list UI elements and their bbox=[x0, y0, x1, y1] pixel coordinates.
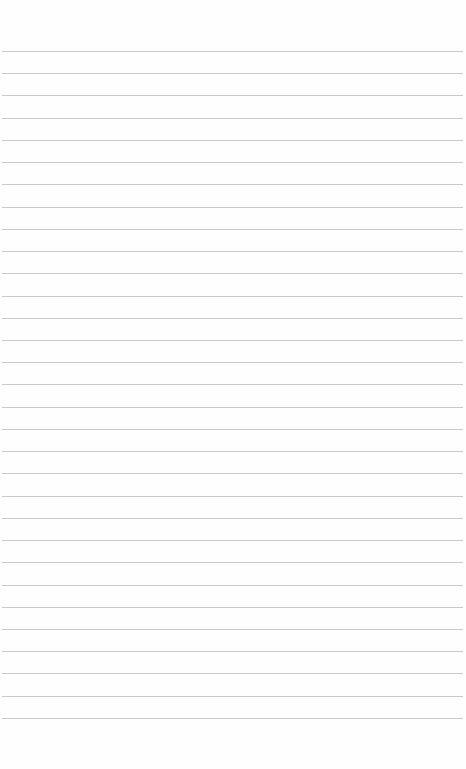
ruled-line bbox=[2, 318, 463, 319]
ruled-line bbox=[2, 251, 463, 252]
ruled-line bbox=[2, 73, 463, 74]
lined-paper-page bbox=[0, 0, 466, 769]
ruled-line bbox=[2, 540, 463, 541]
ruled-line bbox=[2, 651, 463, 652]
ruled-line bbox=[2, 384, 463, 385]
ruled-line bbox=[2, 118, 463, 119]
ruled-line bbox=[2, 140, 463, 141]
ruled-line bbox=[2, 51, 463, 52]
ruled-line bbox=[2, 451, 463, 452]
ruled-line bbox=[2, 340, 463, 341]
ruled-line bbox=[2, 207, 463, 208]
ruled-line bbox=[2, 273, 463, 274]
ruled-line bbox=[2, 95, 463, 96]
ruled-line bbox=[2, 362, 463, 363]
ruled-line bbox=[2, 673, 463, 674]
ruled-line bbox=[2, 429, 463, 430]
ruled-line bbox=[2, 473, 463, 474]
ruled-line bbox=[2, 296, 463, 297]
ruled-line bbox=[2, 718, 463, 719]
ruled-line bbox=[2, 518, 463, 519]
ruled-line bbox=[2, 585, 463, 586]
ruled-line bbox=[2, 696, 463, 697]
ruled-line bbox=[2, 496, 463, 497]
ruled-line bbox=[2, 607, 463, 608]
ruled-line bbox=[2, 184, 463, 185]
ruled-line bbox=[2, 162, 463, 163]
ruled-line bbox=[2, 407, 463, 408]
ruled-line bbox=[2, 629, 463, 630]
ruled-line bbox=[2, 562, 463, 563]
ruled-line bbox=[2, 229, 463, 230]
